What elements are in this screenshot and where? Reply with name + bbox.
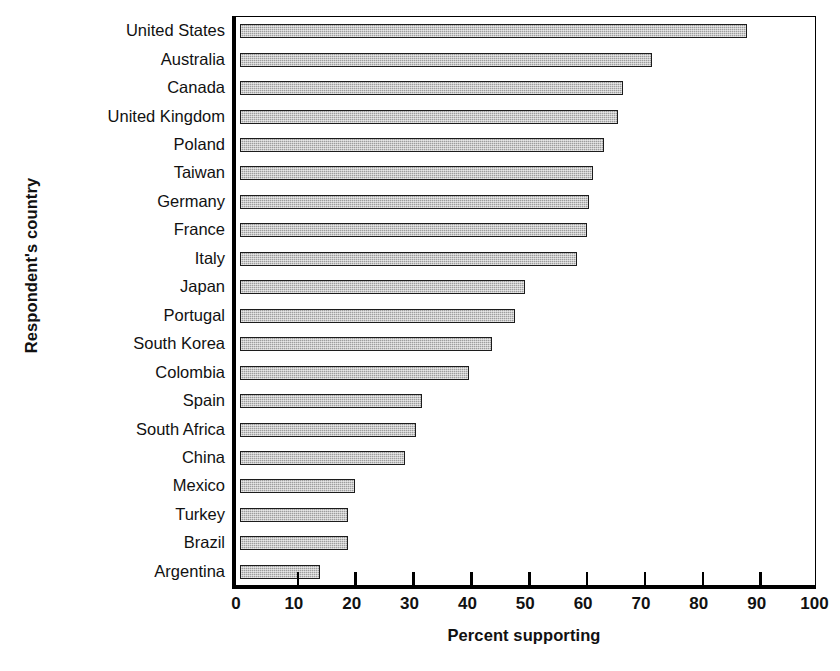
- bar: [240, 309, 515, 323]
- bar: [240, 423, 416, 437]
- x-axis-tick-label: 10: [284, 594, 303, 614]
- bar: [240, 223, 587, 237]
- bar: [240, 195, 589, 209]
- plot-area: [232, 16, 816, 589]
- x-axis-tick-label: 80: [689, 594, 708, 614]
- x-axis-tick: [586, 572, 589, 585]
- y-axis-tick-label: Argentina: [10, 562, 225, 580]
- bar: [240, 337, 492, 351]
- x-axis-tick: [412, 572, 415, 585]
- y-axis-tick-label: Australia: [10, 50, 225, 68]
- y-axis-tick-label: United Kingdom: [10, 107, 225, 125]
- x-axis-tick: [759, 572, 762, 585]
- x-axis-tick-label: 20: [342, 594, 361, 614]
- y-axis-tick-label: Germany: [10, 192, 225, 210]
- y-axis-tick-label: Portugal: [10, 306, 225, 324]
- x-axis-tick: [470, 572, 473, 585]
- bar: [240, 366, 469, 380]
- x-axis-tick: [702, 572, 705, 585]
- bar: [240, 394, 422, 408]
- y-axis-tick-label: Taiwan: [10, 163, 225, 181]
- y-axis-tick-label: Colombia: [10, 363, 225, 381]
- x-axis-tick-label: 30: [400, 594, 419, 614]
- y-axis-tick-label: Italy: [10, 249, 225, 267]
- x-axis-tick-label: 90: [747, 594, 766, 614]
- y-axis-tick-label: Mexico: [10, 476, 225, 494]
- y-axis-tick-label: South Africa: [10, 420, 225, 438]
- x-axis-tick-label: 100: [800, 594, 828, 614]
- bar: [240, 536, 348, 550]
- x-axis-tick-labels: 0102030405060708090100: [232, 594, 816, 620]
- y-axis-tick-label: South Korea: [10, 334, 225, 352]
- x-axis-tick-label: 70: [631, 594, 650, 614]
- bar: [240, 81, 623, 95]
- bar: [240, 138, 604, 152]
- y-axis-tick-label: United States: [10, 21, 225, 39]
- y-axis-tick-label: Japan: [10, 277, 225, 295]
- bar: [240, 280, 525, 294]
- x-axis-tick: [354, 572, 357, 585]
- bar: [240, 508, 348, 522]
- bar-series: [236, 17, 815, 585]
- bar: [240, 479, 355, 493]
- x-axis-tick-label: 50: [516, 594, 535, 614]
- y-axis-tick-label: Canada: [10, 78, 225, 96]
- bar: [240, 166, 593, 180]
- bar: [240, 565, 320, 579]
- bar: [240, 451, 405, 465]
- y-axis-tick-label: Poland: [10, 135, 225, 153]
- x-axis-tick: [644, 572, 647, 585]
- x-axis-tick-label: 0: [231, 594, 240, 614]
- x-axis-tick-label: 60: [574, 594, 593, 614]
- y-axis-tick-label: Spain: [10, 391, 225, 409]
- y-axis-tick-label: Turkey: [10, 505, 225, 523]
- y-axis-tick-label: Brazil: [10, 533, 225, 551]
- bar: [240, 53, 652, 67]
- bar: [240, 252, 577, 266]
- x-axis-title: Percent supporting: [232, 626, 816, 645]
- y-axis-tick-label: China: [10, 448, 225, 466]
- y-axis-tick-labels: United StatesAustraliaCanadaUnited Kingd…: [10, 16, 225, 589]
- x-axis-tick: [297, 572, 300, 585]
- x-axis-tick-label: 40: [458, 594, 477, 614]
- x-axis-tick: [528, 572, 531, 585]
- bar-chart-figure: Respondent's country United StatesAustra…: [0, 0, 840, 671]
- bar: [240, 110, 618, 124]
- y-axis-tick-label: France: [10, 220, 225, 238]
- bar: [240, 24, 747, 38]
